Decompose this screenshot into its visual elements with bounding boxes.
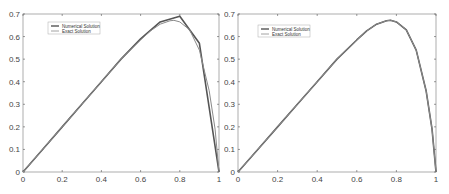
x-tick-label: 0.2 (272, 175, 284, 184)
legend-exact-label: Exact Solution (272, 32, 301, 37)
y-tick-label: 0.4 (9, 78, 21, 87)
y-tick-label: 0.6 (224, 33, 236, 42)
numerical-solution-line (23, 16, 219, 172)
legend: Numerical SolutionExact Solution (48, 22, 100, 34)
y-tick-label: 0.6 (9, 33, 21, 42)
y-tick-label: 0.7 (224, 10, 236, 19)
axes-frame (238, 14, 436, 172)
legend-exact-label: Exact Solution (62, 29, 91, 34)
y-tick-label: 0.2 (9, 123, 21, 132)
numerical-solution-line (238, 20, 436, 172)
x-tick-label: 0 (236, 175, 241, 184)
y-tick-label: 0.5 (224, 55, 236, 64)
right-chart-panel: 00.10.20.30.40.50.60.700.20.40.60.81Nume… (224, 0, 449, 194)
y-tick-label: 0.3 (9, 100, 21, 109)
right-chart: 00.10.20.30.40.50.60.700.20.40.60.81Nume… (224, 0, 449, 194)
x-tick-label: 0 (21, 175, 26, 184)
y-tick-label: 0.7 (9, 10, 21, 19)
x-tick-label: 1 (217, 175, 222, 184)
y-tick-label: 0.2 (224, 123, 236, 132)
y-tick-label: 0.3 (224, 100, 236, 109)
exact-solution-line (238, 20, 436, 172)
x-tick-label: 0.4 (312, 175, 324, 184)
x-tick-label: 0.2 (57, 175, 69, 184)
x-tick-label: 1 (434, 175, 439, 184)
axes-frame (23, 14, 219, 172)
x-tick-label: 0.8 (391, 175, 403, 184)
exact-solution-line (23, 20, 219, 172)
y-tick-label: 0.1 (9, 145, 21, 154)
y-tick-label: 0.1 (224, 145, 236, 154)
y-tick-label: 0.4 (224, 78, 236, 87)
left-chart-panel: 00.10.20.30.40.50.60.700.20.40.60.81Nume… (0, 0, 224, 194)
left-chart: 00.10.20.30.40.50.60.700.20.40.60.81Nume… (0, 0, 224, 194)
y-tick-label: 0.5 (9, 55, 21, 64)
legend: Numerical SolutionExact Solution (258, 25, 310, 37)
x-tick-label: 0.4 (96, 175, 108, 184)
x-tick-label: 0.6 (135, 175, 147, 184)
x-tick-label: 0.8 (174, 175, 186, 184)
x-tick-label: 0.6 (351, 175, 363, 184)
